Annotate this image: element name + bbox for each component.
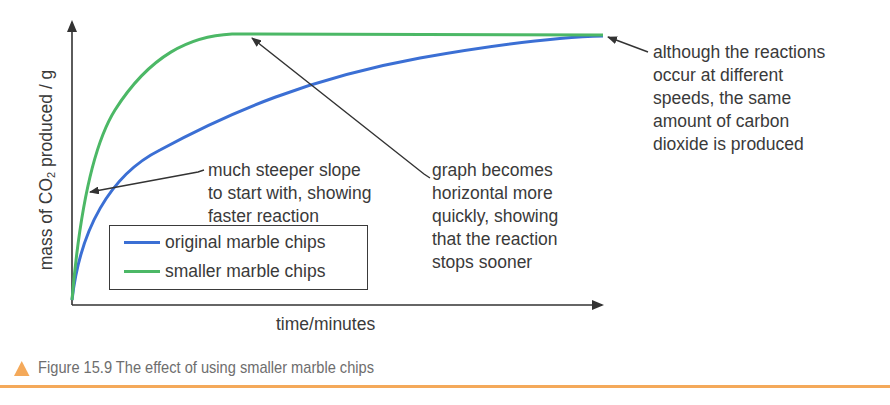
x-axis-label: time/minutes [276, 314, 375, 335]
caption-text: Figure 15.9 The effect of using smaller … [38, 358, 374, 378]
arrow-same-amount [608, 37, 648, 52]
y-axis-label: mass of CO2 produced / g [36, 70, 57, 271]
triangle-icon [14, 361, 29, 376]
divider-rule [0, 385, 890, 388]
annotation-steeper-slope: much steeper slope to start with, showin… [208, 159, 371, 228]
arrow-horizontal-sooner [252, 38, 430, 178]
legend-label: smaller marble chips [165, 261, 325, 282]
legend-label: original marble chips [165, 232, 326, 253]
legend-swatch-blue [124, 241, 160, 244]
legend-item-smaller: smaller marble chips [124, 261, 325, 282]
annotation-same-amount: although the reactions occur at differen… [653, 41, 825, 156]
legend: original marble chips smaller marble chi… [109, 225, 368, 290]
legend-swatch-green [124, 270, 160, 273]
arrow-steeper-slope [90, 170, 204, 192]
figure-caption: Figure 15.9 The effect of using smaller … [14, 358, 374, 378]
annotation-horizontal-sooner: graph becomes horizontal more quickly, s… [432, 159, 558, 274]
legend-item-original: original marble chips [124, 232, 326, 253]
